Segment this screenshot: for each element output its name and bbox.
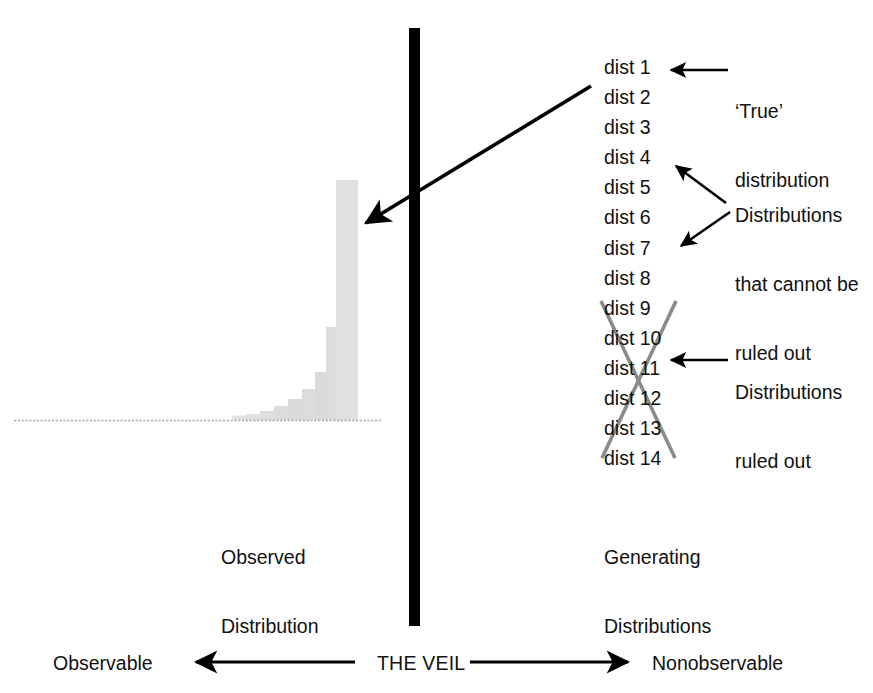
list-item[interactable]: dist 6 [604, 202, 704, 232]
histogram-bar [315, 372, 326, 420]
ruled-out-line2: ruled out [735, 450, 842, 473]
generating-distributions-caption-line1: Generating [604, 546, 711, 569]
histogram-bar [336, 180, 358, 420]
observed-distribution-caption-line1: Observed [221, 546, 319, 569]
histogram-bar [288, 399, 302, 420]
list-item[interactable]: dist 1 [604, 52, 704, 82]
list-item[interactable]: dist 2 [604, 82, 704, 112]
histogram-bar [274, 406, 288, 420]
list-item[interactable]: dist 3 [604, 112, 704, 142]
observed-distribution-caption-line2: Distribution [221, 615, 319, 638]
generating-distributions-list: dist 1 dist 2 dist 3 dist 4 dist 5 dist … [604, 52, 704, 473]
histogram-bar [232, 416, 246, 421]
list-item[interactable]: dist 5 [604, 172, 704, 202]
veil-diagram: dist 1 dist 2 dist 3 dist 4 dist 5 dist … [0, 0, 873, 693]
ruled-out-callout: Distributions ruled out [735, 335, 842, 519]
ruled-out-line1: Distributions [735, 381, 842, 404]
list-item[interactable]: dist 12 [604, 383, 704, 413]
list-item[interactable]: dist 7 [604, 233, 704, 263]
observed-distribution-caption: Observed Distribution [221, 500, 319, 684]
histogram-bar [246, 414, 260, 420]
observable-label: Observable [53, 652, 153, 675]
the-veil-label: THE VEIL [377, 652, 465, 675]
cannot-be-ruled-out-line2: that cannot be [735, 273, 859, 296]
histogram-bar [260, 411, 274, 420]
list-item[interactable]: dist 10 [604, 323, 704, 353]
list-item[interactable]: dist 4 [604, 142, 704, 172]
list-item[interactable]: dist 9 [604, 293, 704, 323]
list-item[interactable]: dist 14 [604, 443, 704, 473]
histogram-bar [326, 327, 336, 420]
generating-distributions-caption-line2: Distributions [604, 615, 711, 638]
true-distribution-to-histogram-arrow [366, 86, 591, 223]
true-distribution-callout-line1: ‘True’ [735, 100, 829, 123]
histogram-bar [302, 389, 315, 420]
list-item[interactable]: dist 8 [604, 263, 704, 293]
histogram-bars [232, 180, 358, 420]
nonobservable-label: Nonobservable [652, 652, 783, 675]
cannot-be-ruled-out-line1: Distributions [735, 204, 859, 227]
list-item[interactable]: dist 13 [604, 413, 704, 443]
veil-bar [409, 28, 420, 626]
list-item[interactable]: dist 11 [604, 353, 704, 383]
